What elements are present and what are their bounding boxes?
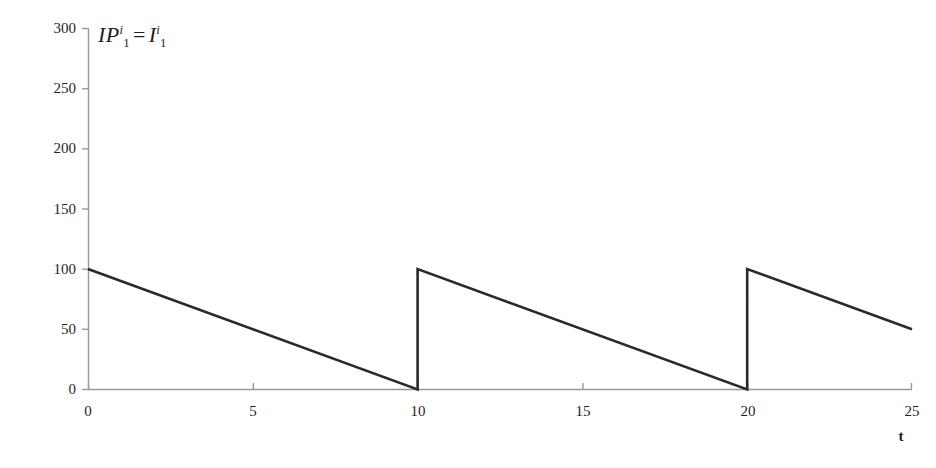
y-tick-label: 250 — [24, 81, 76, 96]
y-tick-label: 0 — [24, 382, 76, 397]
y-tick-label: 200 — [24, 141, 76, 156]
series-label-equals: = — [130, 22, 149, 47]
x-tick-label: 15 — [563, 404, 603, 419]
series-label-sub-2: 1 — [160, 36, 167, 50]
y-tick-label: 150 — [24, 202, 76, 217]
series-label-sup-2: i — [156, 23, 160, 37]
x-tick-marks — [89, 383, 912, 389]
x-tick-label: 0 — [68, 404, 108, 419]
plot-canvas — [0, 0, 936, 468]
y-tick-label: 50 — [24, 322, 76, 337]
x-tick-label: 10 — [398, 404, 438, 419]
x-axis-title: t — [884, 428, 918, 445]
series-label-sub-1: 1 — [123, 36, 130, 50]
y-tick-label: 300 — [24, 21, 76, 36]
series-label-base-1: IP — [98, 22, 119, 47]
data-series-sawtooth — [88, 269, 912, 390]
series-label: IPi1=Ii1 — [98, 22, 167, 51]
chart-figure: 300 250 200 150 100 50 0 0 5 10 15 20 25… — [0, 0, 936, 468]
x-tick-label: 5 — [233, 404, 273, 419]
y-tick-label: 100 — [24, 262, 76, 277]
x-tick-label: 20 — [728, 404, 768, 419]
series-label-sup-1: i — [119, 23, 123, 37]
x-tick-label: 25 — [892, 404, 932, 419]
y-tick-marks — [82, 29, 88, 390]
